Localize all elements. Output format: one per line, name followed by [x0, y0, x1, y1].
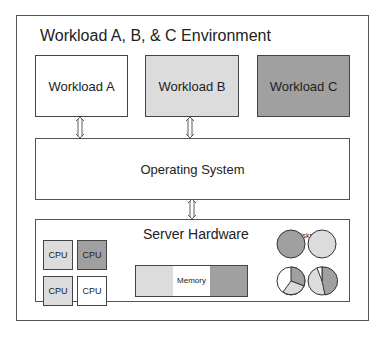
server-hardware-title: Server Hardware [143, 226, 249, 242]
disk-1-icon [277, 230, 305, 258]
disk-4-icon [308, 267, 338, 295]
disk-2-icon [308, 230, 336, 258]
cpu-1: CPU [43, 240, 73, 270]
arrow-os-hw-icon [188, 199, 196, 219]
disks-group [270, 225, 350, 310]
arrow-b-os-icon [186, 117, 194, 138]
operating-system-box: Operating System [35, 138, 350, 200]
cpu-3: CPU [43, 276, 73, 306]
cpu-2: CPU [77, 240, 107, 270]
disk-3-icon [277, 267, 305, 295]
cpu-4: CPU [77, 276, 107, 306]
memory-label: Memory [135, 276, 248, 285]
arrow-a-os-icon [76, 117, 84, 138]
